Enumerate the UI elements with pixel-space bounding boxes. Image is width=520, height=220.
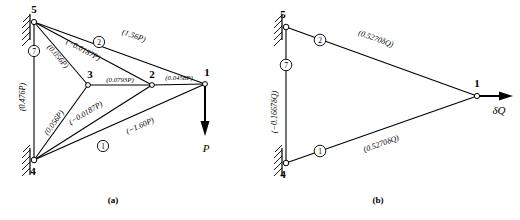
truss-figure: 5 4 3 2 1 2 1 7 (1.56P) (−1.60P) (−0.018… <box>0 0 520 220</box>
value-label-5-4-b: (−0.1667δQ) <box>270 91 279 134</box>
load-arrow-b <box>479 92 513 101</box>
node-label-1-b: 1 <box>474 77 480 89</box>
caption-b: (b) <box>373 195 384 205</box>
joint-4-b <box>283 160 289 166</box>
member-bubble-7-b-label: 7 <box>284 61 288 70</box>
joint-1-b <box>474 93 479 98</box>
member-bubble-2-b-label: 2 <box>318 36 322 45</box>
panel-b: 5 4 1 2 1 7 (0.5270δQ) (0.5270δQ) (−0.16… <box>0 0 520 220</box>
member-bubble-2-b: 2 <box>314 34 326 46</box>
node-label-5-b: 5 <box>280 8 286 20</box>
node-label-4-b: 4 <box>280 168 286 180</box>
member-bubble-1-b: 1 <box>314 145 326 157</box>
joint-5-b <box>283 24 289 30</box>
member-bubble-7-b: 7 <box>280 59 292 71</box>
load-label-b: δQ <box>492 104 505 116</box>
member-bubble-1-b-label: 1 <box>318 147 322 156</box>
value-label-top-chord-b: (0.5270δQ) <box>357 28 395 49</box>
value-label-bottom-chord-b: (0.5270δQ) <box>362 133 400 154</box>
